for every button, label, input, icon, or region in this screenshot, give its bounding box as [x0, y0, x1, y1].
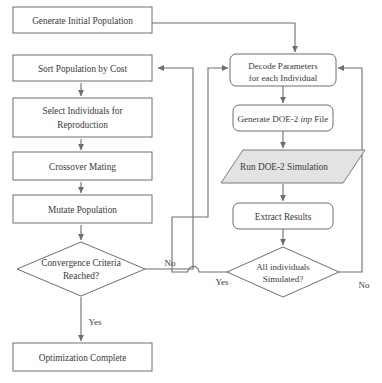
node-label-decode-line1: Decode Parameters — [248, 61, 318, 71]
node-run-doe2-simulation[interactable]: Run DOE-2 Simulation — [221, 150, 365, 183]
node-label-generate-initial-population: Generate Initial Population — [32, 16, 133, 26]
flowchart-svg: Generate Initial Population Sort Populat… — [0, 0, 382, 383]
inp-text-part-2-italic: inp — [301, 114, 313, 124]
node-extract-results[interactable]: Extract Results — [233, 203, 333, 229]
edge-label-convergence-yes: Yes — [88, 317, 102, 327]
node-label-crossover-mating: Crossover Mating — [49, 162, 116, 172]
edge-label-convergence-no: No — [165, 258, 176, 268]
node-generate-initial-population[interactable]: Generate Initial Population — [13, 7, 152, 33]
node-label-select-individuals-line1: Select Individuals for — [42, 106, 123, 116]
node-optimization-complete[interactable]: Optimization Complete — [13, 343, 152, 371]
node-sort-population-by-cost[interactable]: Sort Population by Cost — [13, 55, 152, 81]
inp-text-part-1: Generate DOE-2 — [238, 114, 301, 124]
node-mutate-population[interactable]: Mutate Population — [13, 195, 152, 223]
node-label-run-doe2-simulation: Run DOE-2 Simulation — [240, 162, 328, 172]
node-decode-parameters-for-each-individual[interactable]: Decode Parameters for each Individual — [230, 54, 336, 86]
node-label-extract-results: Extract Results — [255, 212, 312, 222]
node-generate-doe2-inp-file[interactable]: Generate DOE-2 inp File — [233, 105, 333, 131]
node-crossover-mating[interactable]: Crossover Mating — [13, 152, 152, 180]
edge-init-to-decode — [152, 23, 295, 52]
node-all-individuals-simulated[interactable]: All individuals Simulated? — [227, 247, 339, 297]
edge-label-simulated-no: No — [359, 280, 370, 290]
node-label-sort-population-by-cost: Sort Population by Cost — [38, 64, 128, 74]
node-convergence-criteria-reached[interactable]: Convergence Criteria Reached? — [17, 242, 145, 296]
edge-label-simulated-yes: Yes — [215, 277, 229, 287]
node-label-optimization-complete: Optimization Complete — [39, 353, 127, 363]
node-label-convergence-line2: Reached? — [63, 271, 99, 281]
flowchart-canvas: Generate Initial Population Sort Populat… — [0, 0, 382, 383]
node-label-decode-line2: for each Individual — [249, 73, 318, 83]
node-label-simulated-line1: All individuals — [256, 262, 310, 272]
node-label-select-individuals-line2: Reproduction — [57, 120, 108, 130]
node-select-individuals-for-reproduction[interactable]: Select Individuals for Reproduction — [13, 98, 152, 137]
node-label-mutate-population: Mutate Population — [48, 205, 117, 215]
node-label-generate-doe2-inp-file: Generate DOE-2 inp File — [238, 114, 329, 124]
inp-text-part-3: File — [312, 114, 328, 124]
node-label-simulated-line2: Simulated? — [263, 274, 304, 284]
node-label-convergence-line1: Convergence Criteria — [41, 258, 121, 268]
